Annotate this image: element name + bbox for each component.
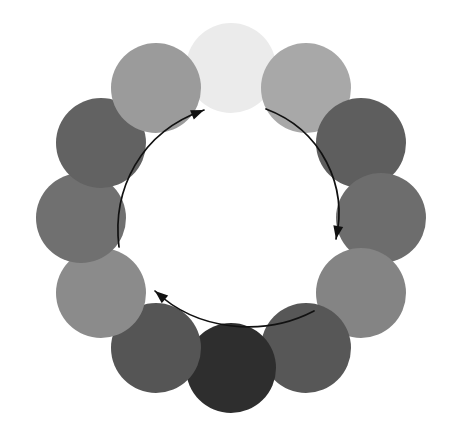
cycle-node-circle[interactable] bbox=[111, 43, 201, 133]
cycle-diagram-canvas bbox=[0, 0, 469, 435]
cycle-diagram-root bbox=[0, 0, 469, 435]
